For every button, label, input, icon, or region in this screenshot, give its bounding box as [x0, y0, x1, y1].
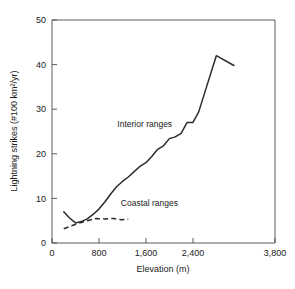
x-axis-ticks [52, 238, 275, 243]
x-axis-title: Elevation (m) [136, 264, 189, 274]
y-axis-title: Lightning strikes (#100 km²/yr) [9, 70, 19, 191]
y-axis-ticks [52, 20, 57, 243]
x-tick-label-800: 800 [91, 248, 106, 258]
y-axis-tick-labels: 0 10 20 30 40 50 [36, 15, 46, 248]
chart-figure: 0 10 20 30 40 50 0 800 1,600 2,400 3,800… [0, 0, 295, 289]
y-tick-label-40: 40 [36, 60, 46, 70]
x-tick-label-3800: 3,800 [264, 248, 287, 258]
y-tick-label-50: 50 [36, 15, 46, 25]
series-annotations: Interior ranges Coastal ranges [117, 119, 178, 208]
y-tick-label-0: 0 [41, 238, 46, 248]
line-chart: 0 10 20 30 40 50 0 800 1,600 2,400 3,800… [0, 0, 295, 289]
x-tick-label-2400: 2,400 [182, 248, 205, 258]
series-line-coastal-ranges [64, 218, 129, 228]
x-tick-label-0: 0 [49, 248, 54, 258]
y-tick-label-20: 20 [36, 149, 46, 159]
annotation-coastal-ranges: Coastal ranges [121, 198, 178, 208]
annotation-interior-ranges: Interior ranges [117, 119, 172, 129]
axes-frame [52, 20, 275, 243]
x-tick-label-1600: 1,600 [135, 248, 158, 258]
y-tick-label-10: 10 [36, 194, 46, 204]
x-axis-tick-labels: 0 800 1,600 2,400 3,800 [49, 248, 286, 258]
y-tick-label-30: 30 [36, 104, 46, 114]
